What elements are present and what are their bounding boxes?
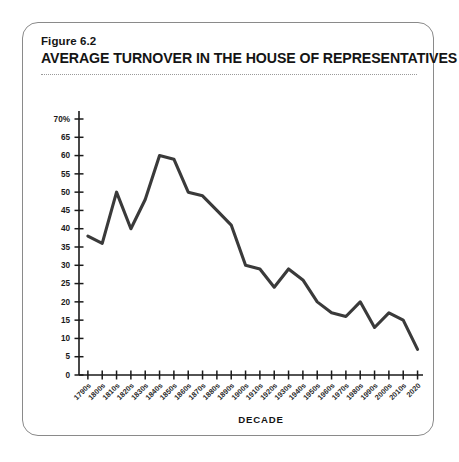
y-axis-tick-label: 35 [61, 243, 71, 252]
y-axis-tick-label: 25 [61, 279, 71, 288]
y-axis-tick-label: 20 [61, 298, 71, 307]
y-axis-tick-label: 50 [61, 188, 71, 197]
x-axis: 1790s1800s1810s1820s1830s1840s1850s1860s… [72, 371, 423, 402]
chart-plot-area: 0510152025303540455055606570% 1790s1800s… [23, 85, 435, 435]
title-divider [41, 74, 417, 75]
y-axis-tick-label: 65 [61, 133, 71, 142]
y-axis-tick-label: 60 [61, 151, 71, 160]
y-axis-tick-label: 40 [61, 224, 71, 233]
x-axis-title: DECADE [238, 414, 283, 425]
figure-number-label: Figure 6.2 [41, 35, 96, 47]
y-axis-tick-label: 5 [65, 352, 70, 361]
y-axis-tick-label: 70% [54, 115, 71, 124]
y-axis-tick-label: 15 [61, 316, 71, 325]
x-axis-tick-label: 2020 [404, 381, 422, 399]
y-axis: 0510152025303540455055606570% [54, 111, 84, 380]
y-axis-tick-label: 30 [61, 261, 71, 270]
figure-title: AVERAGE TURNOVER IN THE HOUSE OF REPRESE… [41, 50, 457, 66]
y-axis-tick-label: 10 [61, 334, 71, 343]
turnover-line-series [88, 156, 418, 350]
line-chart: 0510152025303540455055606570% 1790s1800s… [23, 85, 435, 435]
y-axis-tick-label: 45 [61, 206, 71, 215]
y-axis-tick-label: 55 [61, 170, 71, 179]
y-axis-tick-label: 0 [65, 371, 70, 380]
figure-card: Figure 6.2 AVERAGE TURNOVER IN THE HOUSE… [22, 22, 434, 436]
